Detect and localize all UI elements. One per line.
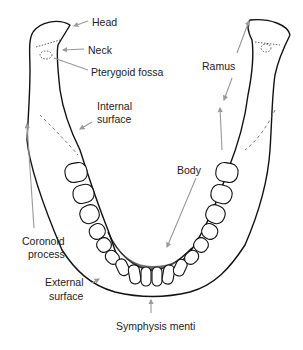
internal-surface-arrow: [80, 122, 92, 129]
mandible-illustration: [0, 0, 303, 350]
label-internal-surface-line2: surface: [97, 113, 131, 125]
label-external-surface-line2: surface: [49, 290, 83, 302]
label-head: Head: [92, 16, 117, 28]
body-arrow-down: [167, 178, 196, 247]
ramus-arrow-up: [237, 21, 249, 53]
coronoid-arrow: [27, 124, 34, 228]
mandible-diagram: Head Neck Pterygoid fossa Internal surfa…: [0, 0, 303, 350]
head-arrow: [74, 21, 88, 26]
label-symphysis-menti: Symphysis menti: [116, 320, 195, 332]
label-coronoid-process-line1: Coronoid: [22, 235, 65, 247]
external-surface-arrow: [92, 279, 99, 283]
pterygoid-fossa-arrow: [54, 58, 88, 70]
label-coronoid-process-line2: process: [28, 248, 65, 260]
ramus-internal-marks: [40, 110, 275, 155]
body-arrow-up: [220, 108, 222, 150]
label-ramus: Ramus: [202, 60, 235, 72]
label-internal-surface-line1: Internal: [97, 100, 132, 112]
neck-arrow: [63, 49, 84, 50]
label-pterygoid-fossa: Pterygoid fossa: [91, 66, 163, 78]
label-body: Body: [177, 164, 201, 176]
label-external-surface-line1: External: [45, 276, 84, 288]
label-neck: Neck: [88, 44, 112, 56]
ramus-arrow-down: [224, 78, 232, 100]
mandible-outline: [27, 20, 290, 297]
